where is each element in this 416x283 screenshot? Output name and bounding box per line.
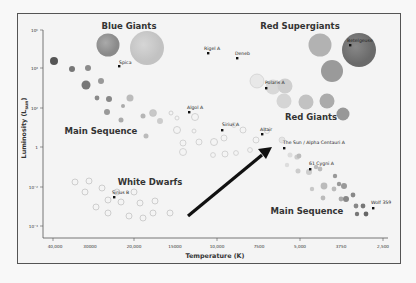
x-tick: 5,000: [294, 244, 306, 249]
region-label-white-dwarfs: White Dwarfs: [118, 177, 183, 187]
star-label-sun: The Sun / Alpha Centauri A: [282, 140, 346, 145]
star-label-wolf-359: Wolf 359: [371, 200, 391, 205]
x-tick: 20,000: [127, 244, 142, 249]
main-sequence-stars: [50, 57, 368, 216]
star-label-deneb: Deneb: [235, 51, 250, 56]
x-tick: 15000: [168, 244, 182, 249]
star-label-61-cygni: 61 Cygni A: [309, 161, 335, 166]
region-label-red-supergiants: Red Supergiants: [260, 21, 339, 31]
hr-diagram: 10⁶ 10⁴ 10² 1 10⁻² 10⁻⁴ Luminosity (Lsun…: [0, 0, 416, 283]
y-tick: 10²: [31, 106, 38, 111]
x-tick: 10,000: [210, 244, 225, 249]
x-tick: 40,000: [48, 244, 63, 249]
arrow-to-sun: [188, 147, 272, 216]
y-tick: 10⁶: [31, 28, 38, 33]
star-label-algol: Algol A: [187, 105, 204, 110]
y-tick: 10⁻⁴: [29, 224, 39, 229]
red-giants-group: [250, 33, 376, 121]
star-label-spica: Spica: [119, 60, 132, 65]
star-label-altair: Altair: [260, 127, 272, 132]
region-label-main-sequence-upper: Main Sequence: [65, 126, 138, 136]
x-axis: 40,000 30000 20,000 15000 10,000 7500 5,…: [43, 238, 389, 260]
region-label-red-giants: Red Giants: [285, 112, 337, 122]
y-axis-title: Luminosity (Lsun): [20, 97, 29, 158]
y-tick: 1: [35, 145, 38, 150]
star-label-sirius-a: Sirius A: [222, 122, 240, 127]
star-label-betelgeuse: Betelgeuse: [347, 38, 373, 43]
star-label-polaris: Polaris A: [265, 80, 286, 85]
region-label-main-sequence-lower: Main Sequence: [271, 206, 344, 216]
y-tick: 10⁴: [31, 66, 38, 71]
y-axis: 10⁶ 10⁴ 10² 1 10⁻² 10⁻⁴ Luminosity (Lsun…: [20, 28, 43, 239]
x-tick: 2,500: [377, 244, 389, 249]
region-label-blue-giants: Blue Giants: [102, 21, 157, 31]
star-label-sirius-b: Sirius B: [112, 190, 129, 195]
x-tick: 3750: [336, 244, 347, 249]
x-tick: 30000: [83, 244, 97, 249]
x-tick: 7500: [254, 244, 265, 249]
y-tick: 10⁻²: [29, 185, 39, 190]
x-axis-title: Temperature (K): [186, 252, 245, 260]
star-label-rigel: Rigel A: [204, 46, 221, 51]
